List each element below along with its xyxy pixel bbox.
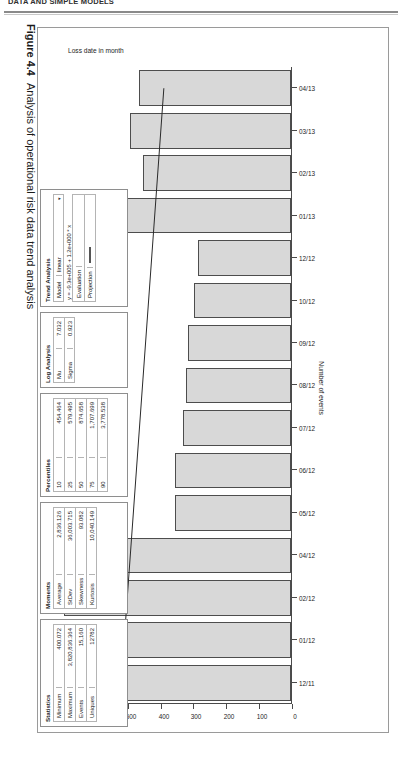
- trend-option-row[interactable]: Evaluation: [72, 194, 84, 302]
- trend-model-select[interactable]: Model linear ▾: [53, 194, 64, 302]
- stat-row: StDev36,003.715: [64, 507, 75, 609]
- stat-row-value: 36,003.715: [67, 508, 73, 574]
- stat-row: Events15,160: [75, 624, 86, 722]
- stat-row-key: 90: [100, 457, 106, 491]
- figure-number: Figure 4.4: [25, 24, 37, 76]
- x-tick-label: 01/13: [299, 213, 315, 220]
- stat-row: Skewness93.082: [75, 507, 86, 609]
- trend-model-value: linear: [56, 200, 62, 275]
- figure-page: DATA AND SIMPLE MODELS Figure 4.4Analysi…: [0, 0, 402, 763]
- stat-row: 10454.464: [53, 398, 64, 492]
- panel-log-analysis: Log Analysis Mu7.032Sigma0.923: [40, 312, 128, 388]
- x-tick: [292, 512, 297, 513]
- trend-option-label: Projection: [87, 267, 93, 301]
- stat-row-value: 400.072: [56, 625, 62, 687]
- x-tick-label: 06/12: [299, 467, 315, 474]
- chevron-down-icon[interactable]: ▾: [56, 195, 62, 200]
- trend-checkbox-rows: EvaluationProjection: [72, 194, 96, 302]
- stat-row-value: 10,040.149: [89, 508, 95, 574]
- panel-moments: Moments Average2,836.126StDev36,003.715S…: [40, 502, 128, 614]
- panel-statistics: Statistics Minimum400.072Maximum3,820,83…: [40, 619, 128, 727]
- trend-option-swatch-icon: [89, 247, 91, 263]
- trend-model-label: Model: [56, 275, 62, 301]
- stat-row-value: 93.082: [78, 508, 84, 574]
- stat-row-key: 75: [89, 457, 95, 491]
- x-tick-label: 09/12: [299, 340, 315, 347]
- x-tick-label: 02/13: [299, 170, 315, 177]
- x-tick-label: 12/11: [299, 680, 315, 687]
- stat-row-key: 25: [67, 457, 73, 491]
- y-tick: [259, 704, 260, 709]
- trend-option-row[interactable]: Projection: [84, 194, 96, 302]
- running-head: DATA AND SIMPLE MODELS: [8, 0, 308, 9]
- x-tick: [292, 469, 297, 470]
- stat-row-value: 3,778.538: [100, 399, 106, 457]
- stat-row-value: 579.495: [67, 399, 73, 457]
- bar: [139, 70, 291, 106]
- x-tick-label: 08/12: [299, 383, 315, 390]
- figure-caption-text: Analysis of operational risk data trend …: [25, 83, 37, 309]
- stat-row-key: 50: [78, 457, 84, 491]
- bar: [175, 453, 291, 489]
- panel-log-analysis-rows: Mu7.032Sigma0.923: [53, 317, 75, 383]
- y-tick-label: 100: [257, 713, 268, 720]
- x-tick: [292, 682, 297, 683]
- figure-caption: Figure 4.4Analysis of operational risk d…: [17, 24, 37, 724]
- stat-row-value: 454.464: [56, 399, 62, 457]
- stat-row-key: Skewness: [78, 574, 84, 608]
- y-tick-label: 400: [158, 713, 169, 720]
- x-tick-label: 04/12: [299, 552, 315, 559]
- x-tick-label: 03/13: [299, 128, 315, 135]
- panel-percentiles: Percentiles 10454.46425579.49550874.6587…: [40, 393, 128, 497]
- y-tick-label: 300: [191, 713, 202, 720]
- bar: [194, 283, 291, 319]
- stat-row-value: 874.658: [78, 399, 84, 457]
- trend-option-swatch-icon: [78, 246, 80, 262]
- x-tick: [292, 427, 297, 428]
- panel-moments-rows: Average2,836.126StDev36,003.715Skewness9…: [53, 507, 97, 609]
- y-tick: [193, 704, 194, 709]
- stat-row-key: Events: [78, 687, 84, 721]
- x-tick: [292, 130, 297, 131]
- panel-trend-analysis-title: Trend Analysis: [44, 194, 51, 302]
- stat-row: Mu7.032: [53, 317, 64, 383]
- stat-row: 50874.658: [75, 398, 86, 492]
- stat-row: 903,778.538: [97, 398, 108, 492]
- x-tick: [292, 385, 297, 386]
- x-tick: [292, 172, 297, 173]
- bar: [143, 155, 292, 191]
- stat-row: Minimum400.072: [53, 624, 64, 722]
- x-tick: [292, 554, 297, 555]
- stat-row-value: 0.923: [67, 318, 73, 348]
- x-tick-label: 04/13: [299, 85, 315, 92]
- x-tick-label: 02/12: [299, 595, 315, 602]
- stat-row-key: Maximum: [67, 687, 73, 721]
- y-tick: [226, 704, 227, 709]
- stat-row: Kurtosis10,040.149: [86, 507, 97, 609]
- statistics-strip: Statistics Minimum400.072Maximum3,820,83…: [40, 87, 128, 727]
- panel-statistics-title: Statistics: [44, 624, 51, 722]
- y-tick-label: 200: [224, 713, 235, 720]
- x-axis-line: [291, 67, 292, 704]
- x-tick: [292, 639, 297, 640]
- x-tick: [292, 87, 297, 88]
- x-tick: [292, 215, 297, 216]
- bar: [175, 495, 291, 531]
- panel-statistics-rows: Minimum400.072Maximum3,820,836.364Events…: [53, 624, 97, 722]
- x-axis-title: Loss date in month: [68, 47, 124, 54]
- stat-row-value: 2,836.126: [56, 508, 62, 574]
- header-rule: [4, 11, 398, 13]
- x-tick-label: 07/12: [299, 425, 315, 432]
- stat-row-key: 10: [56, 457, 62, 491]
- stat-row-key: Uniques: [89, 687, 95, 721]
- stat-row: Sigma0.923: [64, 317, 75, 383]
- stat-row-key: Average: [56, 574, 62, 608]
- stat-row-value: 3,820,836.364: [67, 625, 73, 687]
- x-tick: [292, 300, 297, 301]
- stat-row: Uniques12782: [86, 624, 97, 722]
- stat-row-value: 7.032: [56, 318, 62, 348]
- bar: [130, 113, 291, 149]
- stat-row-value: 15,160: [78, 625, 84, 687]
- stat-row-key: Sigma: [67, 348, 73, 382]
- x-tick: [292, 597, 297, 598]
